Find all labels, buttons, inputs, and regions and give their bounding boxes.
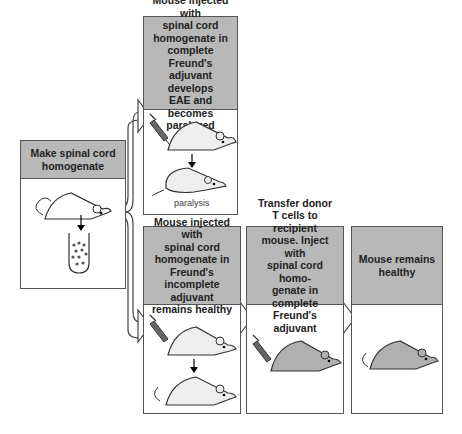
step-label: Mouse injected with spinal cord homogena… (144, 17, 237, 110)
step-incomplete-adjuvant-healthy: Mouse injected with spinal cord homogena… (143, 226, 241, 414)
injected-mouse-healthy-illustration (144, 305, 240, 413)
step-label: Mouse remains healthy (352, 227, 442, 305)
test-tube-icon (69, 233, 89, 273)
healthy-mouse-illustration (352, 305, 442, 413)
mouse-icon (362, 341, 438, 369)
mouse-icon (168, 122, 236, 150)
healthy-mouse-icon (154, 377, 236, 405)
step-mouse-remains-healthy: Mouse remains healthy (351, 226, 443, 414)
mouse-icon (271, 341, 341, 371)
syringe-icon (150, 114, 172, 148)
paralyzed-mouse-icon (152, 168, 226, 196)
mouse-to-tube-illustration (21, 179, 125, 287)
syringe-icon (150, 315, 168, 342)
step-label: Make spinal cord homogenate (21, 141, 125, 179)
mouse-icon (36, 193, 111, 219)
paralysis-caption: paralysis (174, 198, 210, 208)
syringe-icon (253, 335, 271, 362)
step-complete-adjuvant-paralyzed: Mouse injected with spinal cord homogena… (143, 16, 238, 215)
step-label: Mouse injected with spinal cord homogena… (144, 227, 240, 305)
step-label: Transfer donor T cells to recipient mous… (247, 227, 343, 305)
step-transfer-t-cells: Transfer donor T cells to recipient mous… (246, 226, 344, 414)
recipient-mouse-illustration (247, 305, 343, 413)
step-make-homogenate: Make spinal cord homogenate (20, 140, 126, 289)
mouse-icon (168, 327, 236, 355)
